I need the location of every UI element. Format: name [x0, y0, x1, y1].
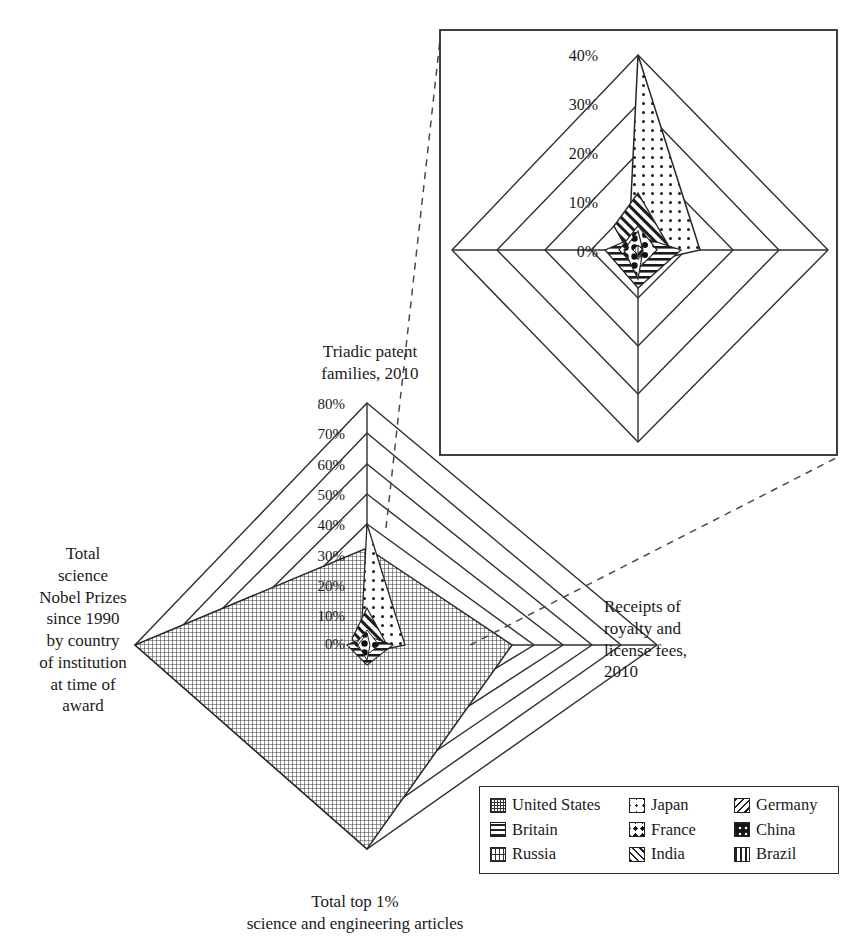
legend-swatch-united-states-icon	[490, 798, 506, 813]
main-tick-10: 10%	[297, 608, 345, 625]
legend-label-united-states: United States	[512, 797, 600, 814]
figure-root: 80% 70% 60% 50% 40% 30% 20% 10% 0% 40% 3…	[0, 0, 861, 949]
legend-label-britain: Britain	[512, 822, 558, 839]
axis-label-left: Total science Nobel Prizes since 1990 by…	[8, 543, 158, 717]
inset-tick-40: 40%	[540, 47, 598, 65]
legend-label-russia: Russia	[512, 846, 556, 863]
main-tick-30: 30%	[297, 548, 345, 565]
legend-item-china[interactable]: China	[734, 822, 844, 839]
legend-item-britain[interactable]: Britain	[490, 822, 629, 839]
legend-label-brazil: Brazil	[756, 846, 796, 863]
main-tick-0: 0%	[303, 636, 345, 653]
axis-label-right: Receipts of royalty and license fees, 20…	[604, 596, 754, 683]
legend-item-japan[interactable]: Japan	[629, 797, 734, 814]
main-tick-80: 80%	[297, 396, 345, 413]
axis-label-top: Triadic patent families, 2010	[290, 341, 450, 385]
main-tick-20: 20%	[297, 578, 345, 595]
legend-swatch-germany-icon	[734, 798, 750, 813]
inset-tick-0: 0%	[548, 243, 598, 261]
axis-label-bottom: Total top 1% science and engineering art…	[205, 891, 505, 935]
legend-item-france[interactable]: France	[629, 822, 734, 839]
legend-label-india: India	[651, 846, 685, 863]
legend-label-japan: Japan	[651, 797, 689, 814]
legend-item-brazil[interactable]: Brazil	[734, 846, 844, 863]
main-tick-60: 60%	[297, 457, 345, 474]
legend-item-united-states[interactable]: United States	[490, 797, 629, 814]
legend-label-france: France	[651, 822, 696, 839]
inset-tick-10: 10%	[540, 194, 598, 212]
main-tick-70: 70%	[297, 426, 345, 443]
legend-label-germany: Germany	[756, 797, 817, 814]
legend-swatch-russia-icon	[490, 847, 506, 862]
legend-label-china: China	[756, 822, 795, 839]
legend-swatch-france-icon	[629, 822, 645, 837]
legend-item-russia[interactable]: Russia	[490, 846, 629, 863]
legend-item-india[interactable]: India	[629, 846, 734, 863]
chart-legend: United States Japan Germany Britain Fran…	[479, 786, 839, 874]
main-tick-50: 50%	[297, 487, 345, 504]
legend-swatch-brazil-icon	[734, 847, 750, 862]
inset-tick-30: 30%	[540, 96, 598, 114]
legend-swatch-india-icon	[629, 847, 645, 862]
legend-swatch-britain-icon	[490, 822, 506, 837]
legend-swatch-china-icon	[734, 822, 750, 837]
main-tick-40: 40%	[297, 517, 345, 534]
inset-tick-20: 20%	[540, 145, 598, 163]
legend-item-germany[interactable]: Germany	[734, 797, 844, 814]
legend-swatch-japan-icon	[629, 798, 645, 813]
